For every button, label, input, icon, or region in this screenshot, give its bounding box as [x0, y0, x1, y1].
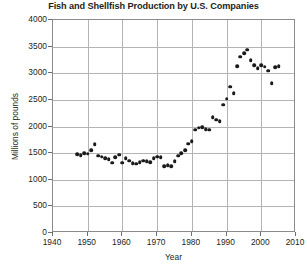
y-axis-tick-label: 2500	[1, 95, 47, 103]
data-point	[221, 103, 225, 107]
gridline-vertical	[88, 20, 89, 231]
data-point	[225, 97, 229, 101]
y-axis-tick-label: 1000	[1, 175, 47, 183]
x-axis-label: Year	[52, 252, 295, 262]
gridline-horizontal	[53, 73, 294, 74]
y-axis-tick-label: 3000	[1, 68, 47, 76]
data-point	[107, 157, 111, 161]
data-point	[242, 51, 246, 55]
data-point	[183, 148, 187, 152]
gridline-vertical	[192, 20, 193, 231]
y-axis-tick-label: 4000	[1, 15, 47, 23]
data-point	[190, 140, 194, 144]
data-point	[239, 55, 243, 59]
gridline-horizontal	[53, 127, 294, 128]
data-point	[110, 161, 114, 165]
data-point	[228, 85, 232, 89]
data-point	[89, 149, 93, 153]
data-point	[117, 153, 121, 157]
data-point	[121, 161, 125, 165]
x-axis-tick-mark	[87, 232, 88, 236]
data-point	[173, 159, 177, 163]
data-point	[159, 156, 163, 160]
y-axis-tick-label: 0	[1, 228, 47, 236]
data-point	[169, 165, 173, 169]
data-point	[180, 151, 184, 155]
data-point	[86, 152, 90, 156]
y-axis-tick-label: 1500	[1, 148, 47, 156]
x-axis-tick-mark	[191, 232, 192, 236]
x-axis-tick-mark	[226, 232, 227, 236]
plot-area	[52, 19, 295, 232]
x-axis-tick-mark	[260, 232, 261, 236]
x-axis-tick-mark	[156, 232, 157, 236]
gridline-horizontal	[53, 100, 294, 101]
gridline-vertical	[261, 20, 262, 231]
y-axis-tick-label: 3500	[1, 42, 47, 50]
chart-title: Fish and Shellfish Production by U.S. Co…	[0, 0, 307, 12]
data-point	[93, 142, 97, 146]
gridline-vertical	[157, 20, 158, 231]
data-point	[270, 82, 274, 86]
chart-figure: Fish and Shellfish Production by U.S. Co…	[0, 0, 307, 271]
data-point	[218, 119, 222, 123]
gridline-vertical	[122, 20, 123, 231]
y-axis-tick-label: 500	[1, 201, 47, 209]
data-point	[232, 91, 236, 95]
data-point	[235, 65, 239, 69]
y-axis-tick-label: 2000	[1, 122, 47, 130]
gridline-horizontal	[53, 206, 294, 207]
data-point	[263, 65, 267, 69]
x-axis-tick-mark	[52, 232, 53, 236]
data-point	[207, 128, 211, 132]
data-point	[266, 69, 270, 73]
gridline-horizontal	[53, 180, 294, 181]
x-axis-tick-mark	[121, 232, 122, 236]
data-point	[246, 48, 250, 52]
x-axis-tick-label: 2010	[275, 238, 307, 247]
data-point	[148, 160, 152, 164]
gridline-vertical	[227, 20, 228, 231]
data-point	[277, 65, 281, 69]
data-point	[249, 58, 253, 62]
gridline-horizontal	[53, 47, 294, 48]
x-axis-tick-mark	[295, 232, 296, 236]
